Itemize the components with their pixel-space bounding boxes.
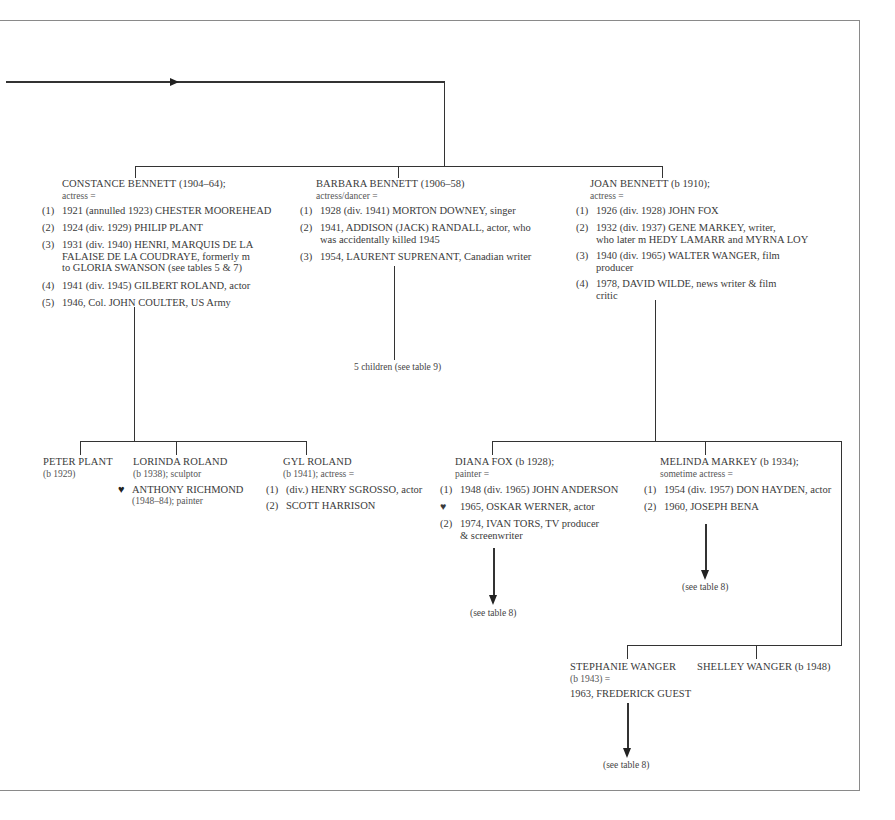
person-joan: JOAN BENNETT (b 1910); actress =: [590, 178, 710, 202]
marriage: (2)1932 (div. 1937) GENE MARKEY, writer,…: [576, 222, 808, 245]
dates: (1904–64);: [179, 178, 226, 189]
see-note: (see table 8): [470, 608, 516, 618]
num: (4): [576, 278, 596, 290]
drop-diana: [492, 441, 493, 455]
name: STEPHANIE WANGER: [570, 661, 676, 672]
marriage: (1)1954 (div. 1957) DON HAYDEN, actor: [644, 484, 831, 496]
see-note: (see table 8): [603, 760, 649, 770]
num: (2): [300, 222, 320, 234]
text: 1926 (div. 1928) JOHN FOX: [596, 205, 719, 216]
partner: ♥1965, OSKAR WERNER, actor: [440, 501, 595, 513]
drop-constance-children: [134, 307, 135, 441]
see-note: (see table 8): [682, 582, 728, 592]
num: (2): [42, 222, 62, 234]
person-stephanie: STEPHANIE WANGER (b 1943) =: [570, 661, 676, 685]
person-melinda: MELINDA MARKEY (b 1934); sometime actres…: [660, 456, 799, 480]
melinda-descent: [705, 524, 707, 572]
num: (3): [576, 250, 596, 262]
marriage: (2)1941, ADDISON (JACK) RANDALL, actor, …: [300, 222, 531, 245]
num: (1): [440, 484, 460, 496]
children-note: 5 children (see table 9): [354, 362, 441, 372]
name: MELINDA MARKEY: [660, 456, 757, 467]
text-cont: FALAISE DE LA COUDRAYE, formerly m: [42, 251, 253, 263]
marriage: 1963, FREDERICK GUEST: [570, 688, 691, 700]
name: PETER PLANT: [43, 456, 113, 467]
name: GYL ROLAND: [283, 456, 352, 467]
drop-lorinda: [176, 441, 177, 455]
text: 1921 (annulled 1923) CHESTER MOOREHEAD: [62, 205, 271, 216]
constance-children-connector: [80, 441, 307, 442]
person-peter: PETER PLANT (b 1929): [43, 456, 113, 480]
text: 1946, Col. JOHN COULTER, US Army: [62, 297, 231, 308]
role: actress/dancer =: [316, 191, 378, 201]
text: 1931 (div. 1940) HENRI, MARQUIS DE LA: [62, 239, 253, 250]
text: 1954, LAURENT SUPRENANT, Canadian writer: [320, 251, 531, 262]
dates: (b 1948): [795, 661, 831, 672]
text-cont: to GLORIA SWANSON (see tables 5 & 7): [42, 262, 253, 274]
joan-children-connector: [492, 441, 842, 442]
name: JOAN BENNETT: [590, 178, 668, 189]
num: (5): [42, 297, 62, 309]
text: 1924 (div. 1929) PHILIP PLANT: [62, 222, 203, 233]
marriage: (3)1931 (div. 1940) HENRI, MARQUIS DE LA…: [42, 239, 253, 274]
role: painter =: [455, 469, 489, 479]
text: 1965, OSKAR WERNER, actor: [460, 501, 595, 512]
num: (2): [576, 222, 596, 234]
drop-joan-children: [655, 300, 656, 441]
dates: (b 1938); sculptor: [133, 469, 201, 479]
person-gyl: GYL ROLAND (b 1941); actress =: [283, 456, 354, 480]
num: (1): [42, 205, 62, 217]
marriage: (4)1941 (div. 1945) GILBERT ROLAND, acto…: [42, 280, 250, 292]
name: SHELLEY WANGER: [697, 661, 792, 672]
text: (div.) HENRY SGROSSO, actor: [286, 484, 422, 495]
heart-icon: ♥: [118, 484, 132, 496]
text-cont: producer: [576, 262, 780, 274]
marriage: (2)1924 (div. 1929) PHILIP PLANT: [42, 222, 203, 234]
partner-name: ANTHONY RICHMOND: [132, 484, 243, 495]
drop-barbara-children: [394, 266, 395, 360]
drop-gyl: [306, 441, 307, 455]
incoming-drop: [444, 81, 445, 167]
text: 1932 (div. 1937) GENE MARKEY, writer,: [596, 222, 776, 233]
num: (4): [42, 280, 62, 292]
marriage: (3)1940 (div. 1965) WALTER WANGER, filmp…: [576, 250, 780, 273]
marriage: (1)1928 (div. 1941) MORTON DOWNEY, singe…: [300, 205, 516, 217]
dates: (b 1934);: [760, 456, 799, 467]
role: actress =: [590, 191, 624, 201]
num: (2): [440, 518, 460, 530]
frame-bottom: [0, 790, 860, 791]
partner-detail: (1948–84); painter: [118, 496, 243, 508]
num: (1): [644, 484, 664, 496]
person-barbara: BARBARA BENNETT (1906–58) actress/dancer…: [316, 178, 465, 202]
num: (3): [42, 239, 62, 251]
arrow-down-icon: [489, 595, 497, 605]
marriage: (1)1948 (div. 1965) JOHN ANDERSON: [440, 484, 618, 496]
dates: (b 1910);: [671, 178, 710, 189]
arrow-down-icon: [701, 570, 709, 580]
text: 1954 (div. 1957) DON HAYDEN, actor: [664, 484, 831, 495]
text-cont: & screenwriter: [440, 530, 599, 542]
marriage: (4)1978, DAVID WILDE, news writer & film…: [576, 278, 776, 301]
num: (2): [644, 501, 664, 513]
drop-stephanie: [627, 645, 628, 659]
text: 1963, FREDERICK GUEST: [570, 688, 691, 699]
text: 1941, ADDISON (JACK) RANDALL, actor, who: [320, 222, 531, 233]
person-diana: DIANA FOX (b 1928); painter =: [455, 456, 554, 480]
dates: (b 1929): [43, 469, 75, 479]
num: (2): [266, 500, 286, 512]
text-cont: critic: [576, 290, 776, 302]
wanger-connector: [627, 645, 842, 646]
drop-constance: [135, 166, 136, 178]
num: (1): [300, 205, 320, 217]
marriage: (3)1954, LAURENT SUPRENANT, Canadian wri…: [300, 251, 531, 263]
person-constance: CONSTANCE BENNETT (1904–64); actress =: [62, 178, 226, 202]
text: 1978, DAVID WILDE, news writer & film: [596, 278, 776, 289]
role: actress =: [62, 191, 96, 201]
name: DIANA FOX: [455, 456, 513, 467]
dates: (b 1928);: [515, 456, 554, 467]
marriage: (2)1960, JOSEPH BENA: [644, 501, 759, 513]
text: 1948 (div. 1965) JOHN ANDERSON: [460, 484, 618, 495]
text: 1941 (div. 1945) GILBERT ROLAND, actor: [62, 280, 250, 291]
text: 1974, IVAN TORS, TV producer: [460, 518, 599, 529]
wanger-descent: [841, 441, 842, 646]
